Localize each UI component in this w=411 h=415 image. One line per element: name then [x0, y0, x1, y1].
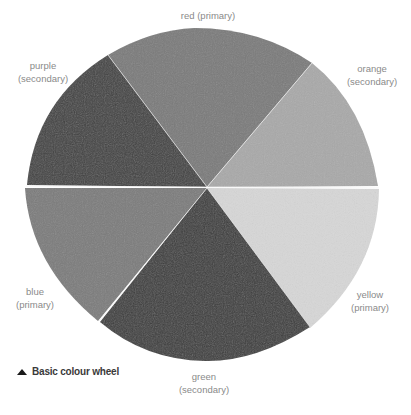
label-red-type: (primary) [197, 10, 235, 21]
label-purple-type: (secondary) [18, 73, 68, 86]
label-red-name: red [181, 10, 197, 21]
label-green-type: (secondary) [179, 384, 229, 397]
triangle-up-icon [17, 369, 27, 375]
label-purple: purple (secondary) [18, 60, 68, 85]
label-red: red (primary) [181, 10, 235, 23]
label-orange: orange (secondary) [347, 63, 397, 88]
label-blue: blue (primary) [16, 286, 54, 311]
figure-caption: Basic colour wheel [17, 366, 119, 377]
label-yellow: yellow (primary) [351, 289, 389, 314]
label-yellow-type: (primary) [351, 302, 389, 315]
label-blue-type: (primary) [16, 299, 54, 312]
label-blue-name: blue [16, 286, 54, 299]
label-green-name: green [179, 371, 229, 384]
caption-text: Basic colour wheel [32, 366, 119, 377]
label-yellow-name: yellow [351, 289, 389, 302]
label-purple-name: purple [18, 60, 68, 73]
label-green: green (secondary) [179, 371, 229, 396]
label-orange-name: orange [347, 63, 397, 76]
label-orange-type: (secondary) [347, 76, 397, 89]
